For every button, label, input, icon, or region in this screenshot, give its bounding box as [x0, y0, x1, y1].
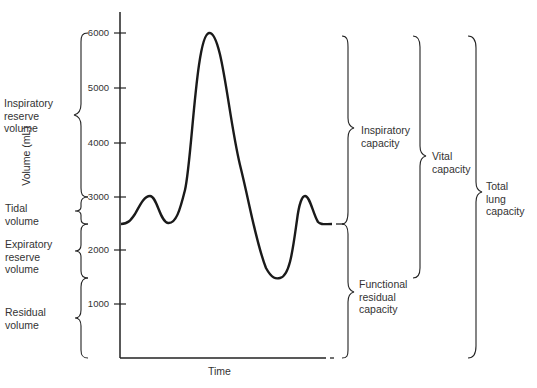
- tick-5000: 5000: [77, 82, 109, 93]
- brace-rv: [75, 278, 88, 358]
- brace-tlc: [468, 36, 482, 358]
- brace-irv: [74, 33, 88, 197]
- x-axis-label: Time: [208, 365, 231, 378]
- tick-2000: 2000: [77, 244, 109, 255]
- brace-vc: [413, 36, 426, 278]
- label-inspiratory-reserve-volume: Inspiratory reserve volume: [4, 97, 53, 135]
- label-functional-residual-capacity: Functional residual capacity: [359, 278, 407, 316]
- brace-frc: [342, 224, 354, 358]
- label-tidal-volume: Tidal volume: [5, 202, 39, 227]
- label-total-lung-capacity: Total lung capacity: [486, 180, 525, 218]
- label-vital-capacity: Vital capacity: [432, 150, 471, 175]
- label-expiratory-reserve-volume: Expiratory reserve volume: [5, 238, 52, 276]
- brace-ic: [342, 36, 354, 224]
- tick-1000: 1000: [77, 298, 109, 309]
- label-inspiratory-capacity: Inspiratory capacity: [361, 124, 410, 149]
- tick-3000: 3000: [77, 191, 109, 202]
- label-residual-volume: Residual volume: [5, 306, 46, 331]
- tick-4000: 4000: [77, 137, 109, 148]
- volume-trace: [121, 33, 332, 278]
- tick-6000: 6000: [77, 27, 109, 38]
